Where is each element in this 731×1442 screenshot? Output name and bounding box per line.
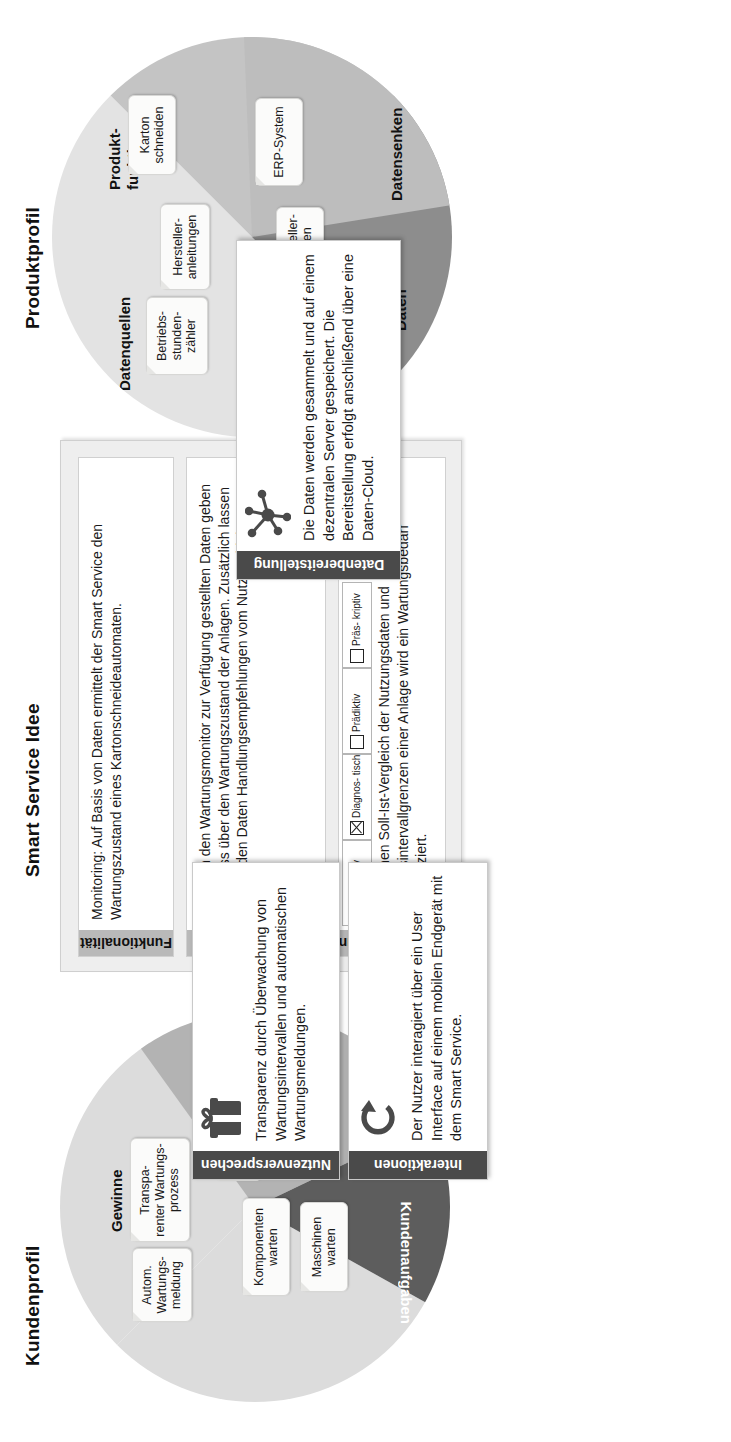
- card-text-interaktionen: Der Nutzer interagiert über ein User Int…: [408, 873, 479, 1141]
- refresh-cycle-icon: [357, 873, 404, 1141]
- panel-header-funktionalitaet: Funktionalität: [79, 930, 173, 956]
- network-hub-icon: [245, 251, 296, 541]
- option-label-diagnostisch-1: Diagnos-: [351, 778, 362, 818]
- card-header-interaktionen: Interaktionen: [349, 1151, 487, 1179]
- option-label-praeskriptiv-2: kriptiv: [351, 593, 362, 619]
- caption-smart-service-idee: Smart Service Idee: [22, 703, 44, 877]
- card-header-datenbereitstellung: Datenbereitstellung: [237, 551, 400, 579]
- card-interaktionen: Interaktionen Der Nutzer interagiert übe…: [348, 862, 488, 1180]
- card-text-nutzenversprechen: Transparenz durch Überwachung von Wartun…: [252, 873, 331, 1141]
- card-datenbereitstellung: Datenbereitstellung: [236, 240, 401, 580]
- gift-icon: [201, 873, 248, 1141]
- card-body-nutzenversprechen: Transparenz durch Überwachung von Wartun…: [193, 863, 339, 1151]
- checkbox-praediktiv[interactable]: [350, 735, 364, 749]
- caption-kundenprofil: Kundenprofil: [22, 1245, 44, 1366]
- option-label-praeskriptiv-1: Präs-: [351, 622, 362, 646]
- panel-funktionalitaet: Funktionalität Monitoring: Auf Basis von…: [78, 457, 174, 957]
- panel-title-funktionalitaet: Funktionalität: [80, 935, 172, 951]
- card-header-nutzenversprechen: Nutzenversprechen: [193, 1151, 339, 1179]
- option-label-diagnostisch-2: tisch: [351, 755, 362, 776]
- note-komponenten-warten: Komponenten warten: [242, 1198, 290, 1296]
- checkbox-diagnostisch[interactable]: [350, 821, 364, 835]
- panel-body-funktionalitaet: Monitoring: Auf Basis von Daten ermittel…: [79, 458, 173, 930]
- segment-label-kundenaufgaben: Kundenaufgaben: [398, 1202, 415, 1325]
- card-title-datenbereitstellung: Datenbereitstellung: [253, 557, 384, 573]
- segment-label-gewinne: Gewinne: [108, 1169, 125, 1232]
- option-diagnostisch[interactable]: Diagnos- tisch: [342, 754, 372, 840]
- option-praediktiv[interactable]: Prädiktiv: [342, 668, 372, 754]
- note-maschinen-warten: Maschinen warten: [300, 1202, 348, 1292]
- note-transparenter-wartungsprozess: Transpa- renter Wartungs- prozess: [130, 1138, 190, 1242]
- segment-label-datenquellen: Datenquellen: [116, 297, 133, 391]
- card-title-nutzenversprechen: Nutzenversprechen: [201, 1157, 331, 1173]
- segment-label-produktfunktionen-line1: Produkt-: [106, 128, 123, 190]
- note-betriebsstundenzaehler: Betriebs- stunden- zähler: [146, 297, 208, 375]
- smart-service-canvas: Kundenprofil Smart Service Idee Produktp…: [0, 0, 731, 1442]
- option-praeskriptiv[interactable]: Präs- kriptiv: [342, 582, 372, 668]
- card-text-datenbereitstellung: Die Daten werden gesammelt und auf einem…: [300, 251, 392, 541]
- checkbox-praeskriptiv[interactable]: [350, 649, 364, 663]
- card-nutzenversprechen: Nutzenversprechen Transparenz durch Über…: [192, 862, 340, 1180]
- segment-label-datensenken: Datensenken: [388, 108, 405, 201]
- card-body-datenbereitstellung: Die Daten werden gesammelt und auf einem…: [237, 241, 400, 551]
- caption-produktprofil: Produktprofil: [22, 207, 44, 329]
- card-body-interaktionen: Der Nutzer interagiert über ein User Int…: [349, 863, 487, 1151]
- note-karton-schneiden: Karton schneiden: [128, 95, 176, 175]
- note-autom-wartungsmeldung: Autom. Wartungs- meldung: [132, 1248, 192, 1322]
- note-erp-system: ERP-System: [255, 98, 303, 186]
- option-label-praediktiv: Prädiktiv: [351, 694, 362, 732]
- note-herstelleranleitungen: Hersteller- anleitungen: [160, 204, 210, 290]
- card-title-interaktionen: Interaktionen: [374, 1157, 462, 1173]
